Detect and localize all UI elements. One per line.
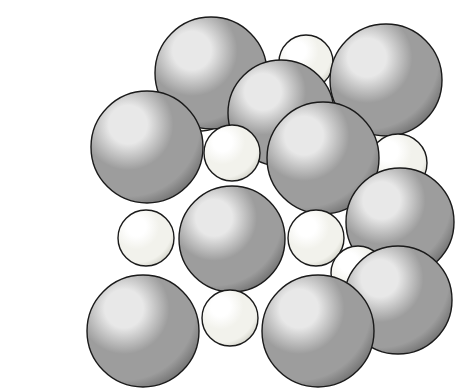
large-atom-bottom-left (87, 275, 199, 387)
crystal-structure-figure: Space-filling crystal structure model Pa… (0, 0, 460, 388)
large-atom-center (179, 186, 285, 292)
small-atom-bottom-center (202, 290, 258, 346)
small-atom-center-upper (204, 125, 260, 181)
large-atom-left-upper (91, 91, 203, 203)
small-atom-left-middle (118, 210, 174, 266)
large-atom-bottom-right (262, 275, 374, 387)
crystal-structure-canvas: Space-filling crystal structure model Pa… (0, 0, 460, 388)
